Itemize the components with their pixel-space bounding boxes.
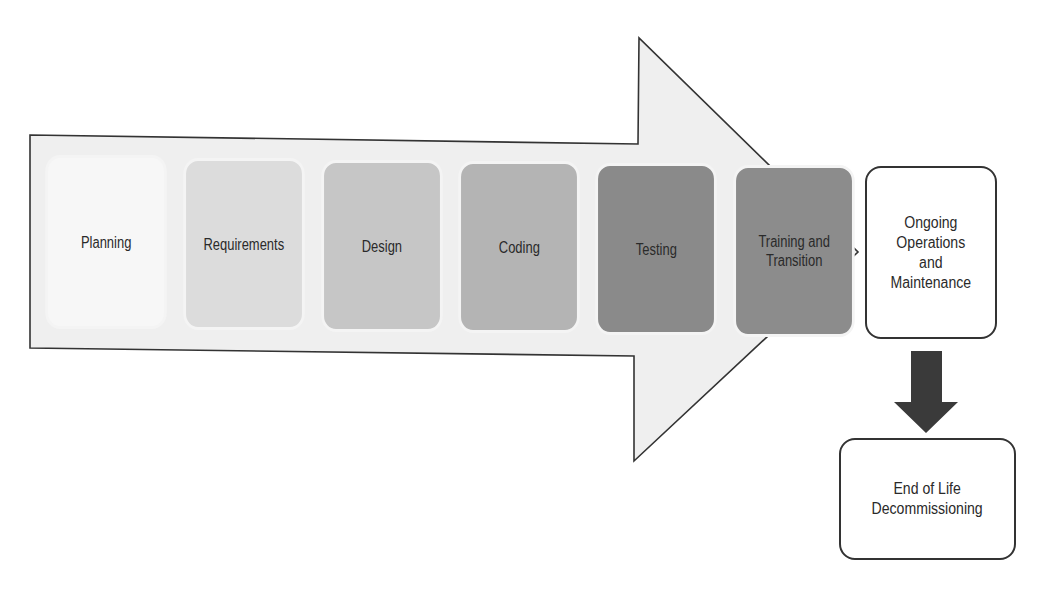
phase-requirements: Requirements bbox=[183, 158, 304, 330]
phase-label: Design bbox=[362, 237, 402, 256]
phase-label: Testing bbox=[635, 240, 676, 259]
end-of-life-label: End of Life Decommissioning bbox=[872, 479, 983, 519]
phase-design: Design bbox=[321, 160, 442, 332]
phase-testing: Testing bbox=[595, 163, 716, 335]
end-of-life-box: End of Life Decommissioning bbox=[839, 438, 1016, 560]
ongoing-operations-box: Ongoing Operations and Maintenance bbox=[865, 166, 997, 339]
ongoing-label: Ongoing Operations and Maintenance bbox=[891, 213, 972, 293]
phase-label: Requirements bbox=[204, 235, 285, 254]
phase-label: Coding bbox=[498, 238, 539, 257]
phase-coding: Coding bbox=[458, 161, 579, 333]
down-arrow-icon bbox=[894, 351, 958, 433]
phase-planning: Planning bbox=[45, 155, 166, 329]
phase-training-and-transition: Training and Transition bbox=[733, 165, 854, 337]
phase-label: Training and Transition bbox=[758, 232, 830, 270]
phase-label: Planning bbox=[81, 233, 131, 252]
